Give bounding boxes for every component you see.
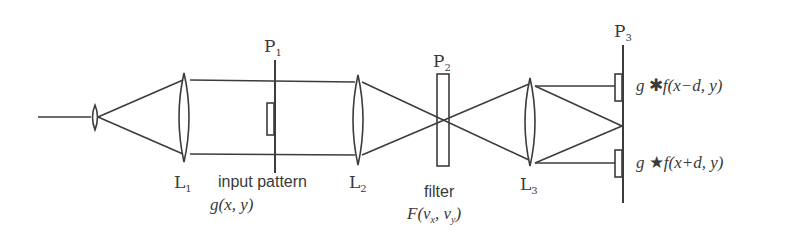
correlation-operator-icon: ★ bbox=[649, 153, 664, 172]
lens-l2-sub: 2 bbox=[360, 183, 366, 194]
plane-p2-letter: P bbox=[433, 51, 444, 71]
plane-p2-label: P2 bbox=[433, 51, 451, 73]
input-pattern-rect bbox=[267, 103, 274, 135]
output-correlation-rect bbox=[615, 150, 622, 177]
lens-l3-sub: 3 bbox=[531, 185, 537, 196]
lens-l3-label: L3 bbox=[520, 174, 538, 196]
point-source-icon bbox=[93, 105, 98, 130]
lens-l1-sub: 1 bbox=[185, 183, 191, 194]
collimated-ray-top bbox=[190, 80, 355, 82]
optical-correlator-diagram: P1 P2 P3 L1 L2 L3 input pattern g(x, y) … bbox=[0, 0, 799, 240]
input-pattern-caption: input pattern bbox=[218, 173, 307, 191]
filter-fn-end: ) bbox=[456, 204, 462, 223]
collimated-ray-bottom bbox=[190, 154, 355, 155]
lens-l2-label: L2 bbox=[349, 172, 367, 194]
lens-l2-icon bbox=[353, 75, 363, 165]
lens-l1-icon bbox=[179, 73, 189, 162]
filter-fn-mid: , ν bbox=[435, 204, 451, 223]
output-corr-rest: f(x+d, y) bbox=[664, 153, 724, 172]
lens-l1-letter: L bbox=[174, 172, 185, 192]
output-correlation-label: g ★f(x+d, y) bbox=[636, 152, 723, 173]
plane-p3-sub: 3 bbox=[625, 32, 631, 43]
plane-p1-letter: P bbox=[264, 36, 275, 56]
plane-p2-sub: 2 bbox=[444, 62, 450, 73]
filter-function-label: F(νx, νy) bbox=[407, 204, 461, 225]
optical-system-svg bbox=[0, 0, 799, 240]
lens-l2-letter: L bbox=[349, 172, 360, 192]
plane-p1-sub: 1 bbox=[275, 47, 281, 58]
lens-l1-label: L1 bbox=[174, 172, 192, 194]
diverging-ray-bottom bbox=[98, 117, 183, 154]
lens-l3-icon bbox=[525, 78, 535, 166]
plane-p1-label: P1 bbox=[264, 36, 282, 58]
output-corr-g: g bbox=[636, 153, 645, 172]
filter-caption: filter bbox=[424, 183, 454, 201]
plane-p3-letter: P bbox=[614, 21, 625, 41]
ray-l2-bottom-to-l3-top bbox=[362, 84, 529, 155]
output-ray-bottom-converging bbox=[535, 126, 622, 163]
output-conv-g: g bbox=[636, 76, 645, 95]
ray-l2-top-to-l3-bottom bbox=[362, 82, 529, 160]
lens-l3-letter: L bbox=[520, 174, 531, 194]
plane-p3-label: P3 bbox=[614, 21, 632, 43]
filter-fn-main: F(ν bbox=[407, 204, 431, 223]
output-convolution-rect bbox=[615, 74, 622, 101]
output-convolution-label: g ✱f(x−d, y) bbox=[636, 75, 722, 96]
output-ray-top-converging bbox=[535, 86, 622, 126]
input-function-label: g(x, y) bbox=[210, 195, 253, 215]
output-conv-rest: f(x−d, y) bbox=[663, 76, 723, 95]
diverging-ray-top bbox=[98, 80, 183, 117]
convolution-operator-icon: ✱ bbox=[649, 76, 663, 95]
